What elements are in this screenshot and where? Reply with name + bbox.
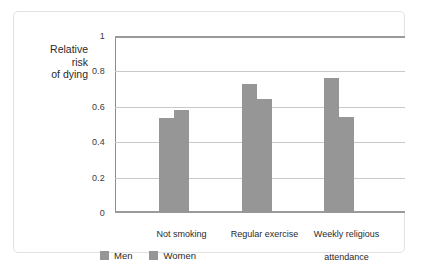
legend-swatch-men-icon — [100, 251, 109, 260]
bar-women-regular-exercise — [257, 99, 272, 213]
bar-men-regular-exercise — [242, 84, 257, 213]
legend-label-women: Women — [163, 250, 196, 261]
gridline-1 — [115, 36, 405, 38]
bar-men-weekly-religious-attendance — [324, 78, 339, 213]
y-tick-label-1: 1 — [100, 31, 105, 41]
legend-entry-men[interactable]: Men — [100, 250, 132, 261]
bar-women-weekly-religious-attendance — [339, 117, 354, 213]
legend-entry-women[interactable]: Women — [149, 250, 196, 261]
chart-frame: Relative risk of dying 1 0.8 0.6 0.4 0.2… — [13, 11, 405, 253]
y-tick-label-02: 0.2 — [92, 173, 105, 183]
x-label-regular-exercise-line-1: Regular exercise — [231, 229, 299, 239]
legend-label-men: Men — [114, 250, 132, 261]
x-label-weekly-religious-attendance-line-2: attendance — [294, 252, 399, 264]
chart-legend: Men Women — [100, 250, 196, 261]
bar-men-not-smoking — [159, 118, 174, 213]
gridline-08 — [115, 71, 405, 72]
bar-women-not-smoking — [174, 110, 189, 213]
y-tick-label-08: 0.8 — [92, 66, 105, 76]
y-axis-tick-labels: 1 0.8 0.6 0.4 0.2 0 — [74, 36, 110, 213]
x-axis-category-labels: Not smoking Regular exercise Weekly reli… — [115, 217, 405, 247]
plot-area — [115, 36, 405, 213]
y-tick-label-06: 0.6 — [92, 102, 105, 112]
x-label-weekly-religious-attendance-line-1: Weekly religious — [294, 229, 399, 241]
x-label-not-smoking-line-1: Not smoking — [156, 229, 206, 239]
x-label-weekly-religious-attendance: Weekly religious attendance — [294, 217, 399, 271]
y-tick-label-04: 0.4 — [92, 137, 105, 147]
y-tick-label-0: 0 — [100, 208, 105, 218]
legend-swatch-women-icon — [149, 251, 158, 260]
